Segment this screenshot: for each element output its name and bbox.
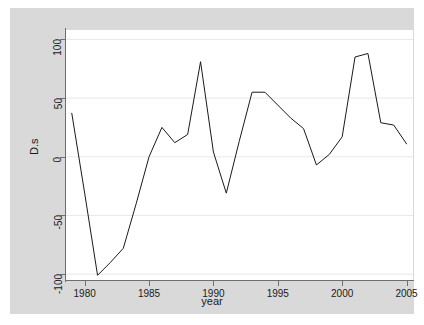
- chart-figure: 100500-50-100 198019851990199520002005 D…: [0, 0, 424, 325]
- x-tick-mark: [149, 281, 150, 286]
- plot-svg: [66, 30, 413, 280]
- x-tick-mark: [407, 281, 408, 286]
- y-tick-label: -100: [53, 274, 64, 294]
- y-tick-label: 50: [53, 98, 64, 109]
- x-tick-mark: [85, 281, 86, 286]
- x-axis-title: year: [0, 295, 424, 307]
- x-tick-mark: [278, 281, 279, 286]
- y-axis-title: D.s: [28, 139, 40, 156]
- graph-region: 100500-50-100 198019851990199520002005 D…: [10, 8, 414, 314]
- x-tick-mark: [342, 281, 343, 286]
- x-axis-line: [65, 280, 414, 281]
- series-line: [72, 53, 407, 275]
- y-tick-label: 0: [53, 157, 64, 163]
- y-axis-line: [65, 28, 66, 282]
- series-lines: [72, 53, 407, 275]
- gridlines: [66, 39, 413, 274]
- y-tick-label: 100: [53, 39, 64, 56]
- x-tick-mark: [213, 281, 214, 286]
- plot-area: [66, 30, 413, 280]
- y-tick-label: -50: [53, 215, 64, 229]
